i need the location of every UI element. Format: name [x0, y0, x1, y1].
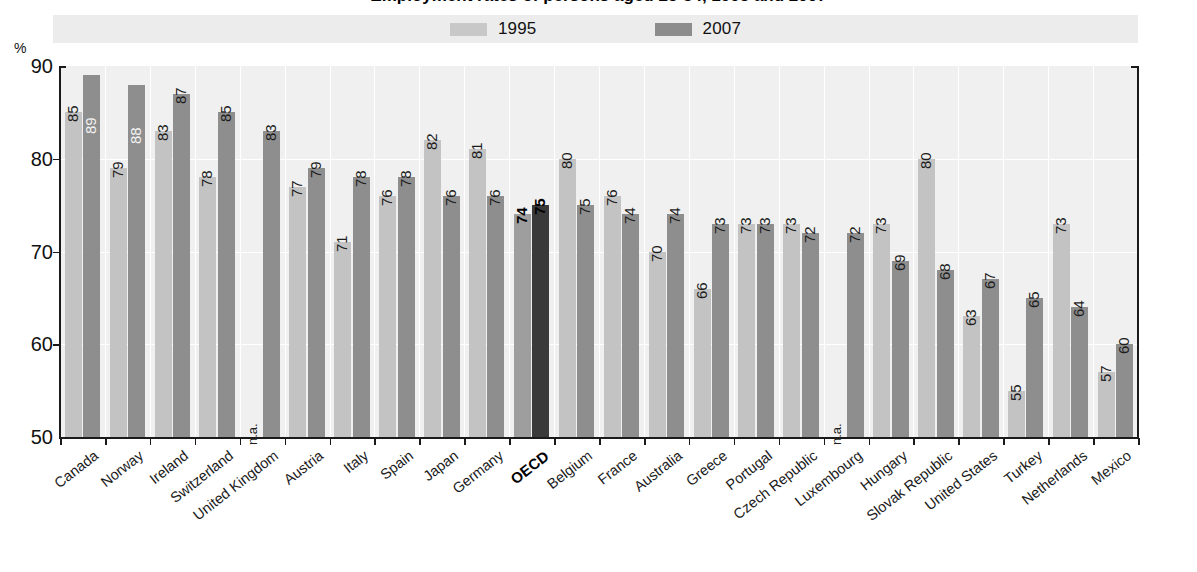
- x-axis-tick: [734, 438, 736, 445]
- bar-2007-portugal: [757, 224, 774, 437]
- bar-1995-france: [604, 196, 621, 437]
- bar-1995-slovak-republic: [918, 159, 935, 437]
- x-axis-tick: [240, 438, 242, 445]
- group-separator: [869, 66, 870, 437]
- x-axis-tick: [105, 438, 107, 445]
- bar-2007-hungary: [892, 261, 909, 437]
- bar-value-label: 77: [289, 180, 304, 197]
- bar-1995-belgium: [559, 159, 576, 437]
- bar-value-label: 69: [892, 254, 907, 271]
- y-axis-tick: [53, 252, 61, 254]
- bar-2007-belgium: [577, 205, 594, 437]
- bar-2007-oecd: [532, 205, 549, 437]
- bar-2007-netherlands: [1071, 307, 1088, 437]
- bar-1995-portugal: [738, 224, 755, 437]
- bar-1995-canada: [65, 112, 82, 437]
- bar-value-label: n.a.: [246, 423, 259, 445]
- group-separator: [824, 66, 825, 437]
- y-axis-line-right: [1137, 66, 1139, 438]
- y-axis-label: 90: [0, 55, 53, 78]
- bar-1995-austria: [289, 187, 306, 437]
- x-axis-tick: [285, 438, 287, 445]
- y-axis-tick: [53, 344, 61, 346]
- bar-value-label: 55: [1008, 384, 1023, 401]
- bar-value-label: 83: [263, 124, 278, 141]
- legend-label-2007: 2007: [703, 19, 742, 39]
- x-axis-tick: [330, 438, 332, 445]
- group-separator: [150, 66, 151, 437]
- chart-root: Employment rates of persons aged 25-54, …: [0, 0, 1197, 572]
- group-separator: [330, 66, 331, 437]
- bar-1995-germany: [469, 149, 486, 437]
- bar-1995-ireland: [155, 131, 172, 437]
- bar-value-label: 80: [559, 152, 574, 169]
- bar-1995-czech-republic: [783, 224, 800, 437]
- bar-value-label: 76: [443, 189, 458, 206]
- legend-label-1995: 1995: [498, 19, 537, 39]
- bar-2007-japan: [443, 196, 460, 437]
- bar-2007-slovak-republic: [937, 270, 954, 437]
- x-axis-tick: [419, 438, 421, 445]
- bar-value-label: 73: [1053, 217, 1068, 234]
- x-axis-tick: [554, 438, 556, 445]
- bar-1995-hungary: [873, 224, 890, 437]
- axis-cap-top-right: [1131, 66, 1139, 68]
- bar-2007-united-kingdom: [263, 131, 280, 437]
- group-separator: [554, 66, 555, 437]
- bar-value-label: 70: [649, 245, 664, 262]
- bar-2007-mexico: [1116, 344, 1133, 437]
- bar-value-label: 73: [738, 217, 753, 234]
- x-axis-tick: [779, 438, 781, 445]
- bar-value-label: 65: [1026, 291, 1041, 308]
- bar-value-label: 89: [83, 118, 98, 135]
- bar-value-label: 68: [937, 263, 952, 280]
- page-title: Employment rates of persons aged 25-54, …: [0, 0, 1197, 5]
- legend-swatch-1995: [450, 23, 487, 36]
- x-axis-tick: [644, 438, 646, 445]
- bar-value-label: 78: [199, 171, 214, 188]
- group-separator: [285, 66, 286, 437]
- bar-value-label: 73: [757, 217, 772, 234]
- y-axis-label: 80: [0, 148, 53, 171]
- x-axis-label-mexico: Mexico: [968, 448, 1135, 572]
- bar-value-label: n.a.: [830, 423, 843, 445]
- legend-item-1995: 1995: [450, 19, 537, 39]
- bar-2007-germany: [487, 196, 504, 437]
- bar-value-label: 85: [65, 106, 80, 123]
- group-separator: [419, 66, 420, 437]
- x-axis-tick: [1093, 438, 1095, 445]
- bar-value-label: 71: [334, 236, 349, 253]
- bar-value-label: 57: [1098, 365, 1113, 382]
- chart-title-clipped: Employment rates of persons aged 25-54, …: [0, 0, 1197, 5]
- bar-value-label: 64: [1071, 300, 1086, 317]
- bar-2007-australia: [667, 214, 684, 437]
- bar-2007-spain: [398, 177, 415, 437]
- group-separator: [240, 66, 241, 437]
- bar-1995-greece: [694, 289, 711, 437]
- bar-value-label: 60: [1116, 338, 1131, 355]
- bar-value-label: 76: [379, 189, 394, 206]
- bar-value-label: 76: [604, 189, 619, 206]
- group-separator: [195, 66, 196, 437]
- bar-value-label: 74: [514, 208, 529, 225]
- bar-value-label: 73: [712, 217, 727, 234]
- group-separator: [599, 66, 600, 437]
- bar-2007-italy: [353, 177, 370, 437]
- x-axis-tick: [913, 438, 915, 445]
- bar-value-label: 74: [622, 208, 637, 225]
- bar-1995-japan: [424, 140, 441, 437]
- group-separator: [1048, 66, 1049, 437]
- y-axis-tick: [53, 159, 61, 161]
- y-axis-unit: %: [14, 40, 26, 56]
- group-separator: [509, 66, 510, 437]
- x-axis-labels: CanadaNorwayIrelandSwitzerlandUnited Kin…: [0, 444, 1197, 572]
- bar-2007-ireland: [173, 94, 190, 437]
- bar-2007-united-states: [982, 279, 999, 437]
- bar-1995-italy: [334, 242, 351, 437]
- bar-value-label: 73: [873, 217, 888, 234]
- x-axis-tick: [195, 438, 197, 445]
- x-axis-tick: [689, 438, 691, 445]
- group-separator: [689, 66, 690, 437]
- bar-2007-france: [622, 214, 639, 437]
- bar-value-label: 76: [487, 189, 502, 206]
